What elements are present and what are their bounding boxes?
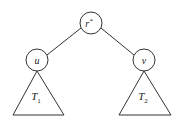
node-root: r* bbox=[80, 12, 102, 34]
subtree-t2-label: T2 bbox=[138, 90, 148, 105]
node-root-superscript: * bbox=[89, 17, 93, 25]
tree-diagram: r* u v T1 T2 bbox=[0, 0, 182, 123]
subtree-t1-label: T1 bbox=[31, 90, 41, 105]
node-u-label: u bbox=[35, 55, 40, 66]
edge-root-v bbox=[101, 28, 134, 55]
edge-root-u bbox=[47, 28, 81, 55]
node-v: v bbox=[133, 49, 155, 71]
subtree-t2-triangle bbox=[119, 71, 171, 115]
subtree-t1-triangle bbox=[13, 71, 64, 115]
node-v-label: v bbox=[142, 55, 147, 66]
node-u: u bbox=[26, 49, 48, 71]
